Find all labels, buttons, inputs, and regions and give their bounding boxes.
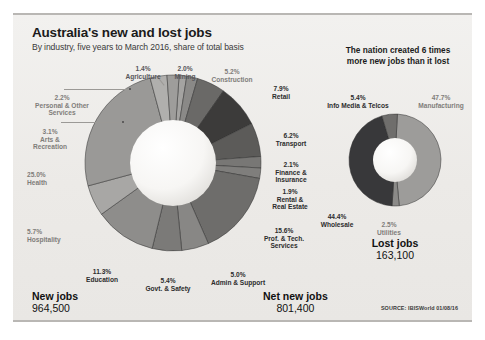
page-subtitle: By industry, five years to March 2016, s… xyxy=(32,42,244,52)
leader-dot-arts xyxy=(122,121,124,123)
lost-jobs-donut-hole xyxy=(373,138,417,182)
label-govt-safety: 5.4%Govt. & Safety xyxy=(137,277,199,292)
net-new-jobs-label: Net new jobs xyxy=(263,290,328,302)
label-arts-recreation: 3.1% Arts & Recreation xyxy=(27,128,73,151)
label-personal-other-services: 2.2% Personal & Other Services xyxy=(21,94,103,117)
label-wholesale: 44.4%Wholesale xyxy=(313,213,361,228)
label-finance-insurance: 2.1% Finance & Insurance xyxy=(264,161,318,184)
infographic-card: Australia's new and lost jobs By industr… xyxy=(13,13,472,322)
new-jobs-donut-hole xyxy=(130,120,216,206)
new-jobs-donut-chart xyxy=(73,63,273,263)
total-new-jobs: New jobs 964,500 xyxy=(32,290,78,314)
label-mining: 2.0%Mining xyxy=(166,65,204,80)
net-new-jobs-value: 801,400 xyxy=(263,302,328,314)
label-health: 25.0%Health xyxy=(27,171,75,186)
leader-line-arts xyxy=(61,122,123,123)
callout-line-1: The nation created 6 times xyxy=(346,45,451,55)
page-title: Australia's new and lost jobs xyxy=(32,25,212,40)
label-education: 11.3%Education xyxy=(75,268,129,283)
label-agriculture: 1.4%Agriculture xyxy=(118,65,168,80)
label-manufacturing: 47.7%Manufacturing xyxy=(405,94,477,109)
lost-jobs-label: Lost jobs xyxy=(343,237,447,249)
new-jobs-value: 964,500 xyxy=(32,302,78,314)
label-rental-real-estate: 1.9% Rental & Real Estate xyxy=(261,188,319,211)
label-info-media-telcos: 5.4%Info Media & Telcos xyxy=(315,94,401,109)
callout-line-2: more new jobs than it lost xyxy=(347,56,449,66)
label-retail: 7.9%Retail xyxy=(259,85,303,100)
label-construction: 5.2%Construction xyxy=(203,68,261,83)
label-prof-tech-services: 15.6% Prof. & Tech. Services xyxy=(253,227,315,250)
lost-jobs-value: 163,100 xyxy=(343,249,447,261)
new-jobs-label: New jobs xyxy=(32,290,78,302)
label-admin-support: 5.0%Admin & Support xyxy=(203,271,273,286)
lost-jobs-donut-chart xyxy=(343,108,447,212)
leader-line-personal xyxy=(64,89,130,90)
label-hospitality: 5.7%Hospitality xyxy=(27,228,75,243)
source-note: SOURCE: IBISWorld 01/08/16 xyxy=(381,305,458,311)
total-net-new-jobs: Net new jobs 801,400 xyxy=(263,290,328,314)
total-lost-jobs: Lost jobs 163,100 xyxy=(343,237,447,261)
label-transport: 6.2%Transport xyxy=(265,132,317,147)
label-utilities: 2.5%Utilities xyxy=(369,221,409,236)
callout-banner: The nation created 6 times more new jobs… xyxy=(323,45,473,67)
leader-dot-personal xyxy=(129,88,131,90)
